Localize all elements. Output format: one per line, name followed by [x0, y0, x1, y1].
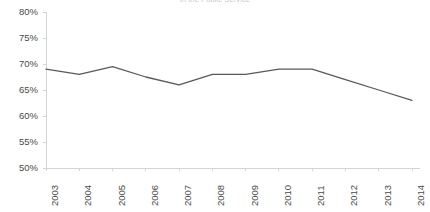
- x-axis-tick-label: 2008: [216, 185, 226, 206]
- data-series-line: [46, 67, 412, 101]
- x-axis-tick-label: 2012: [349, 185, 359, 206]
- x-axis-tick-label: 2011: [316, 186, 326, 206]
- x-axis-tick-label: 2009: [250, 185, 260, 206]
- x-axis-tick-label: 2006: [150, 185, 160, 206]
- chart-plot-area: [0, 0, 430, 212]
- x-axis-tick-label: 2004: [83, 185, 93, 206]
- x-axis-tick-label: 2013: [383, 185, 393, 206]
- x-axis-tick-label: 2010: [283, 185, 293, 206]
- x-axis-tick-label: 2014: [416, 185, 426, 206]
- x-axis-tick-label: 2007: [183, 185, 193, 206]
- x-axis-tick-label: 2005: [117, 185, 127, 206]
- x-axis-tick-label: 2003: [50, 185, 60, 206]
- line-chart: in the Public Service 80%75%70%65%60%55%…: [0, 0, 430, 212]
